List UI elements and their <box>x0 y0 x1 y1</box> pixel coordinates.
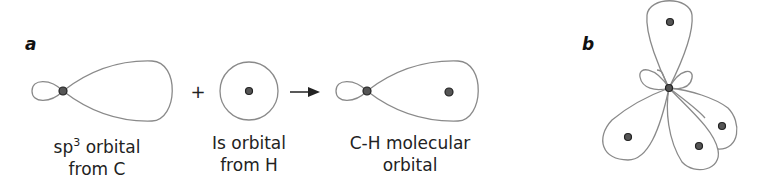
sp3-orbital-label: sp3 orbital from C <box>54 132 141 180</box>
tetrahedral-orbitals <box>603 1 737 170</box>
ch-molecular-orbital <box>336 61 478 121</box>
1s-orbital-label: Is orbital from H <box>212 132 286 176</box>
plus-operator: + <box>190 81 205 102</box>
ch-orbital-label: C-H molecular orbital <box>350 132 471 176</box>
sp3-orbital <box>32 61 172 121</box>
arrow-icon <box>290 87 320 97</box>
1s-orbital <box>220 62 278 120</box>
